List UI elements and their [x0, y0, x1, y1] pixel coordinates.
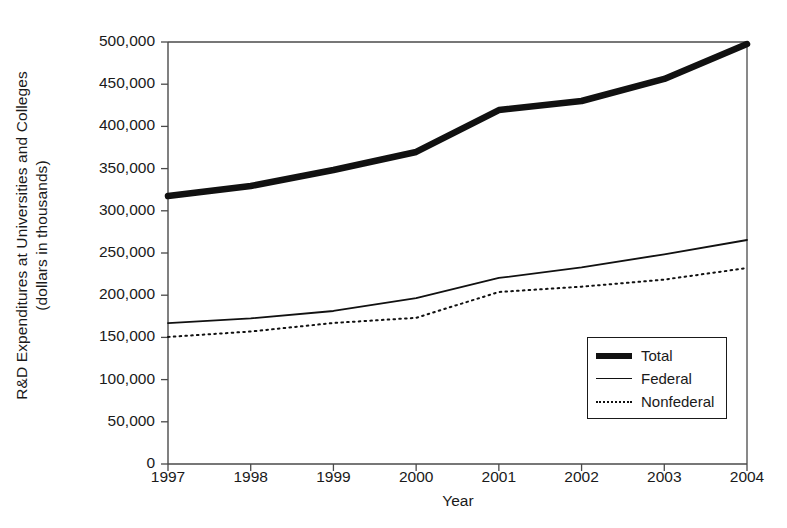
legend-label-total: Total [641, 347, 673, 364]
thick-solid-line-swatch-icon [596, 349, 632, 363]
series-line-total [168, 44, 747, 196]
legend-label-nonfederal: Nonfederal [641, 393, 714, 410]
series-line-federal [168, 240, 747, 323]
plot-area [0, 0, 787, 528]
legend-item-federal: Federal [596, 367, 726, 390]
legend-item-total: Total [596, 344, 726, 367]
chart-legend: Total Federal Nonfederal [587, 337, 727, 419]
legend-label-federal: Federal [641, 370, 692, 387]
x-axis-title: Year [168, 492, 748, 510]
thin-solid-line-swatch-icon [596, 372, 632, 386]
legend-item-nonfederal: Nonfederal [596, 390, 726, 413]
rd-expenditures-line-chart: R&D Expenditures at Universities and Col… [0, 0, 787, 528]
series-line-nonfederal [168, 268, 747, 337]
dotted-line-swatch-icon [596, 395, 632, 409]
y-axis-ticks [161, 42, 168, 464]
x-axis-ticks [168, 464, 747, 471]
data-series-group [168, 44, 747, 337]
